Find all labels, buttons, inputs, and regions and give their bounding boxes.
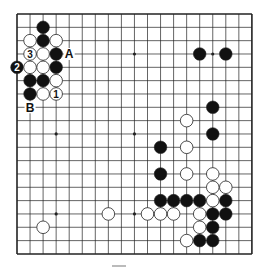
black-stone [193, 234, 206, 247]
black-stone [24, 88, 37, 101]
move-number: 3 [27, 49, 33, 60]
white-stone [193, 208, 206, 221]
white-stone [167, 208, 180, 221]
black-stone [50, 61, 63, 74]
white-stone [220, 181, 233, 194]
diagram-caption-cropped [112, 265, 126, 267]
point-label-b: B [26, 101, 35, 115]
black-stone [154, 168, 167, 181]
star-point [55, 212, 58, 215]
white-stone [50, 74, 63, 87]
black-stone [50, 48, 63, 61]
black-stone [206, 221, 219, 234]
black-stone [206, 128, 219, 141]
white-stone [24, 61, 37, 74]
white-stone [141, 208, 154, 221]
white-stone [180, 114, 193, 127]
black-stone [206, 234, 219, 247]
white-stone [193, 221, 206, 234]
black-stone [37, 74, 50, 87]
white-stone [37, 221, 50, 234]
black-stone [193, 194, 206, 207]
star-point [133, 212, 136, 215]
black-stone [154, 194, 167, 207]
star-point [133, 52, 136, 55]
star-point [211, 52, 214, 55]
star-point [133, 132, 136, 135]
white-stone: 1 [50, 88, 63, 101]
white-stone [180, 168, 193, 181]
black-stone [37, 34, 50, 47]
black-stone: 2 [11, 61, 24, 74]
white-stone [50, 34, 63, 47]
black-stone [206, 208, 219, 221]
black-stone [37, 21, 50, 34]
black-stone [180, 194, 193, 207]
move-number: 2 [14, 62, 20, 73]
white-stone [37, 61, 50, 74]
white-stone [102, 208, 115, 221]
white-stone [206, 168, 219, 181]
black-stone [154, 141, 167, 154]
white-stone [206, 194, 219, 207]
star-point [55, 132, 58, 135]
white-stone [206, 181, 219, 194]
black-stone [167, 194, 180, 207]
black-stone [220, 48, 233, 61]
white-stone [180, 141, 193, 154]
white-stone [154, 208, 167, 221]
black-stone [220, 194, 233, 207]
go-board-diagram: AB 231 [0, 0, 258, 268]
black-stone [193, 48, 206, 61]
white-stone: 3 [24, 48, 37, 61]
white-stone [37, 48, 50, 61]
white-stone [24, 34, 37, 47]
black-stone [24, 74, 37, 87]
point-label-a: A [65, 47, 74, 61]
black-stone [206, 101, 219, 114]
black-stone [220, 208, 233, 221]
white-stone [180, 234, 193, 247]
move-number: 1 [53, 89, 59, 100]
white-stone [37, 88, 50, 101]
